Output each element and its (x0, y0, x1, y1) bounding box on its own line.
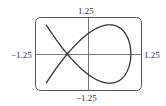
y-min-label: −1.25 (76, 93, 97, 103)
x-min-label: −1.25 (11, 50, 32, 60)
y-max-label: 1.25 (78, 6, 94, 16)
x-max-label: 1.25 (144, 50, 160, 60)
